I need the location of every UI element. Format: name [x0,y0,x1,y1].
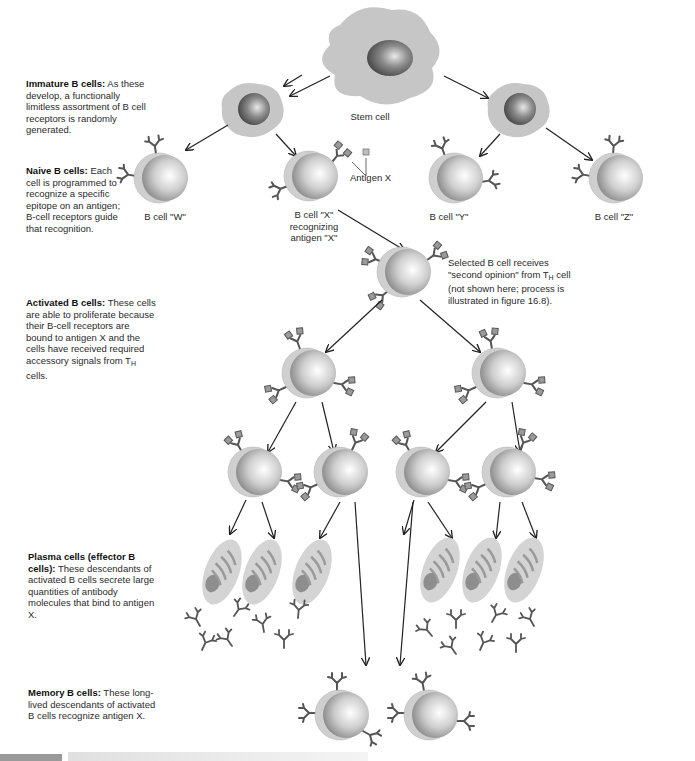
note-line2: "second opinion" from TH cell [448,269,598,284]
activated-b-cell-gen3-1 [223,429,302,497]
antibodies-left [183,596,308,654]
label-b-cell-x: B cell "X" recognizing antigen "X" [286,209,342,244]
free-antigen [363,149,369,155]
caption-faded [68,752,368,761]
label-b-cell-y: B cell "Y" [424,211,474,223]
memory-title: Memory B cells: [28,687,101,698]
plasma-cells-left [194,534,339,610]
activated-b-cell-gen2-right [453,327,546,405]
caption-bar [0,754,62,761]
label-b-cell-x-line3: antigen "X" [286,232,342,244]
activated-b-cell-gen3-3 [391,429,470,497]
label-b-cell-z: B cell "Z" [589,211,639,223]
memory-b-cell-right [388,672,474,740]
label-b-cell-x-line1: B cell "X" [286,209,342,221]
label-stem-cell: Stem cell [340,111,400,123]
description-immature-b-cells: Immature B cells: As these develop, a fu… [26,78,156,136]
naive-title: Naive B cells: [26,165,88,176]
naive-b-cell-x [268,141,352,201]
note-line3: (not shown here; process is [448,283,598,295]
description-memory-b-cells: Memory B cells: These long-lived descend… [28,687,158,722]
stem-cell [322,7,439,104]
activated-b-cell-gen3-4 [463,427,556,501]
naive-b-cell-z [572,135,643,203]
description-naive-b-cells: Naive B cells: Each cell is programmed t… [26,165,121,235]
immature-b-cell-right [488,83,550,137]
naive-b-cell-w [117,135,188,203]
note-line4: illustrated in figure 16.8). [448,295,598,307]
description-activated-b-cells: Activated B cells: These cells are able … [26,297,156,381]
b-cell-diagram: Immature B cells: As these develop, a fu… [0,0,695,761]
selected-b-cell [360,240,449,310]
activated-text-end: cells. [26,370,48,381]
antibodies-right [414,602,542,659]
activated-subscript: H [131,360,136,367]
activated-b-cell-gen2-left [263,326,356,404]
second-opinion-note: Selected B cell receives "second opinion… [448,257,598,306]
note-line1: Selected B cell receives [448,257,598,269]
immature-b-cell-left [222,83,284,137]
label-antigen-x: Antigen X [350,172,400,184]
plasma-cells-right [412,532,551,608]
memory-b-cell-left [299,673,383,748]
note-line2-text: "second opinion" from T [448,269,549,280]
immature-title: Immature B cells: [26,78,105,89]
activated-b-cell-gen3-2 [295,427,369,501]
label-b-cell-x-line2: recognizing [286,221,342,233]
activated-title: Activated B cells: [26,297,105,308]
label-b-cell-w: B cell "W" [140,211,190,223]
note-line2-end: cell [554,269,571,280]
description-plasma-cells: Plasma cells (effector B cells): These d… [28,551,163,621]
